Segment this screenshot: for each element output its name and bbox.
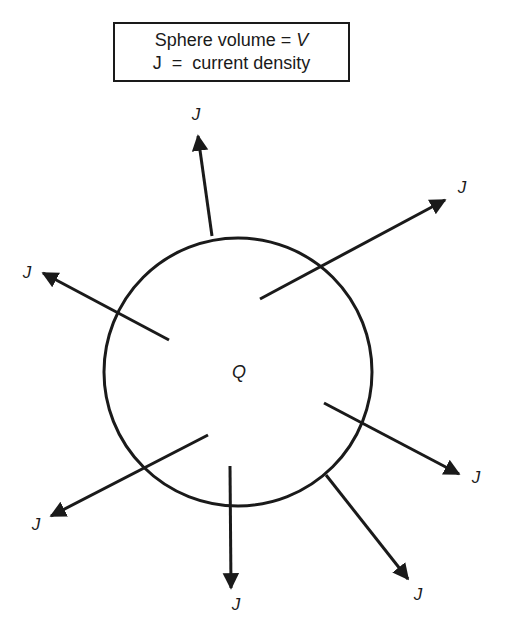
arrow-icon	[51, 435, 208, 516]
current-density-label: J	[413, 585, 423, 604]
current-density-label: J	[22, 263, 32, 282]
arrow-bottom: J	[230, 466, 241, 614]
arrow-icon	[326, 475, 408, 579]
arrow-bottom-right: J	[326, 475, 423, 604]
current-density-label: J	[231, 595, 241, 614]
arrow-icon	[43, 273, 169, 340]
arrow-icon	[260, 200, 445, 299]
arrow-right: J	[324, 403, 481, 487]
current-density-label: J	[457, 178, 467, 197]
current-density-label: J	[191, 105, 201, 124]
arrow-icon	[230, 466, 231, 588]
arrow-top: J	[191, 105, 212, 236]
arrow-lower-left: J	[31, 435, 208, 534]
arrow-icon	[198, 136, 212, 236]
arrow-icon	[324, 403, 459, 474]
current-density-label: J	[31, 515, 41, 534]
current-density-label: J	[471, 468, 481, 487]
current-density-arrows: JJJJJJJ	[22, 105, 481, 614]
charge-label: Q	[232, 362, 246, 382]
arrow-upper-right: J	[260, 178, 467, 299]
current-density-diagram: Q JJJJJJJ	[0, 0, 505, 637]
